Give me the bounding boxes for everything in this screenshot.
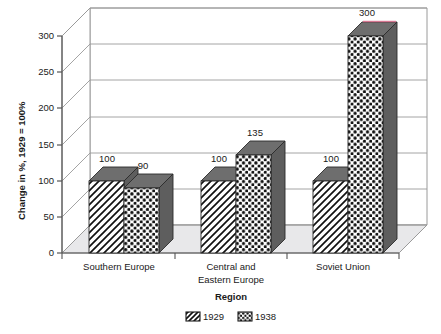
- bar-central-eastern-europe-1938[interactable]: [236, 141, 285, 253]
- y-tick-200: 200: [22, 103, 54, 113]
- y-tick-300: 300: [22, 31, 54, 41]
- y-tick-50: 50: [22, 212, 54, 222]
- y-axis-title: Change in %, 1929 = 100%: [17, 101, 27, 220]
- legend-label-1938: 1938: [255, 312, 276, 322]
- bar-soviet-union-1938[interactable]: [348, 22, 397, 254]
- y-tick-150: 150: [22, 140, 54, 150]
- y-tick-0: 0: [22, 248, 54, 258]
- data-label-central-eastern-europe-1929: 100: [202, 154, 236, 164]
- legend-swatch-1938: [238, 312, 252, 321]
- x-category-soviet-union: Soviet Union: [290, 262, 396, 272]
- data-label-southern-europe-1938: 90: [126, 161, 160, 171]
- x-category-southern-europe: Southern Europe: [66, 262, 172, 272]
- data-label-central-eastern-europe-1938: 135: [238, 128, 272, 138]
- x-axis-title: Region: [175, 292, 287, 302]
- data-label-soviet-union-1929: 100: [314, 154, 348, 164]
- x-axis: [62, 253, 399, 259]
- data-label-southern-europe-1929: 100: [90, 154, 124, 164]
- bar-southern-europe-1938[interactable]: [124, 174, 173, 253]
- y-tick-100: 100: [22, 176, 54, 186]
- x-category-central-eastern-europe-line2: Eastern Europe: [178, 275, 284, 285]
- legend-label-1929: 1929: [203, 312, 224, 322]
- bar-chart: Change in %, 1929 = 100% 300 250 200 150…: [0, 0, 441, 334]
- x-category-central-eastern-europe-line1: Central and: [178, 262, 284, 272]
- data-label-soviet-union-1938: 300: [350, 8, 384, 18]
- y-axis: [57, 36, 62, 253]
- y-tick-250: 250: [22, 67, 54, 77]
- legend-swatch-1929: [186, 312, 200, 321]
